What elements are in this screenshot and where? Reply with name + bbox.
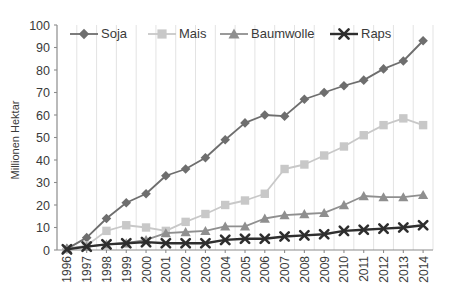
data-point-marker-square (142, 223, 150, 231)
y-axis-title-text: Millionen Hektar (9, 100, 21, 179)
data-point-marker-diamond (359, 75, 369, 85)
data-point-marker-square (280, 165, 288, 173)
y-tick-label: 100 (29, 19, 50, 33)
x-tick-label: 2014 (417, 256, 431, 283)
x-tick-label: 2013 (397, 256, 411, 283)
data-point-marker-square (122, 221, 130, 229)
series-soja (62, 36, 428, 254)
data-point-marker-square (320, 151, 328, 159)
legend-label: Raps (361, 26, 392, 41)
data-point-marker-square (157, 29, 166, 38)
y-tick-label: 80 (36, 64, 50, 78)
data-point-marker-diamond (339, 81, 349, 91)
gridlines (57, 25, 433, 250)
data-point-marker-square (221, 201, 229, 209)
x-tick-label: 2008 (298, 256, 312, 283)
legend-label: Mais (179, 26, 207, 41)
x-tick-label: 2009 (318, 256, 332, 283)
legend-item-baumwolle[interactable]: Baumwolle (220, 26, 315, 41)
y-tick-label: 10 (36, 221, 50, 235)
data-point-marker-square (340, 142, 348, 150)
line-chart: 0102030405060708090100 19961997199819992… (0, 0, 455, 296)
series-mais (63, 114, 428, 253)
x-tick-label: 1997 (80, 256, 94, 283)
y-tick-label: 60 (36, 109, 50, 123)
x-tick-label: 2006 (258, 256, 272, 283)
legend-label: Soja (101, 26, 128, 41)
x-tick-label: 2001 (159, 256, 173, 283)
x-tick-label: 2004 (219, 256, 233, 283)
data-point-marker-square (241, 196, 249, 204)
x-tick-label: 2007 (278, 256, 292, 283)
y-tick-label: 90 (36, 41, 50, 55)
data-point-marker-diamond (260, 110, 270, 120)
data-point-marker-square (102, 227, 110, 235)
chart-container: 0102030405060708090100 19961997199819992… (0, 0, 455, 296)
data-point-marker-square (379, 121, 387, 129)
data-point-marker-square (399, 114, 407, 122)
data-point-marker-square (201, 210, 209, 218)
y-tick-label: 40 (36, 154, 50, 168)
y-axis-title: Millionen Hektar (9, 100, 21, 179)
data-point-marker-diamond (319, 88, 329, 98)
x-tick-label: 2002 (179, 256, 193, 283)
x-tick-label: 2010 (337, 256, 351, 283)
legend-label: Baumwolle (251, 26, 315, 41)
data-point-marker-diamond (79, 29, 89, 39)
x-tick-label: 1998 (100, 256, 114, 283)
x-tick-label: 2005 (239, 256, 253, 283)
legend-item-soja[interactable]: Soja (70, 26, 128, 41)
legend-item-raps[interactable]: Raps (330, 26, 392, 41)
data-point-marker-square (181, 218, 189, 226)
x-tick-label: 2011 (357, 256, 371, 282)
y-tick-label: 0 (43, 244, 50, 258)
data-point-marker-square (300, 160, 308, 168)
series-line (67, 41, 423, 249)
axes (57, 25, 433, 250)
y-tick-label: 50 (36, 131, 50, 145)
x-tick-label: 1996 (60, 256, 74, 283)
data-point-marker-triangle (339, 200, 349, 209)
x-tick-label: 2012 (377, 256, 391, 283)
chart-legend: SojaMaisBaumwolleRaps (70, 26, 392, 41)
y-tick-label: 30 (36, 176, 50, 190)
data-point-marker-diamond (181, 164, 191, 174)
legend-item-mais[interactable]: Mais (148, 26, 207, 41)
data-point-marker-diamond (379, 64, 389, 74)
data-point-marker-square (360, 131, 368, 139)
data-point-marker-square (261, 190, 269, 198)
x-tick-label: 2000 (140, 256, 154, 283)
y-tick-label: 70 (36, 86, 50, 100)
y-tick-label: 20 (36, 199, 50, 213)
x-axis-tick-labels: 1996199719981999200020012002200320042005… (60, 250, 430, 283)
y-axis-tick-labels: 0102030405060708090100 (29, 19, 57, 258)
x-tick-label: 1999 (120, 256, 134, 283)
data-point-marker-square (419, 121, 427, 129)
x-tick-label: 2003 (199, 256, 213, 283)
